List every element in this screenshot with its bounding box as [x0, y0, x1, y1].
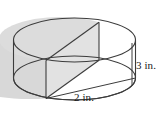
geometry-figure: 3 in. 2 in.: [0, 0, 164, 117]
radius-dimension-label: 2 in.: [74, 91, 94, 103]
height-dimension-label: 3 in.: [136, 59, 156, 71]
